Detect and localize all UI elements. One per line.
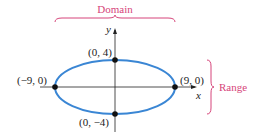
y-axis-arrow-icon	[113, 28, 117, 34]
range-brace	[207, 60, 214, 114]
y-axis-label: y	[105, 23, 111, 35]
ellipse-diagram: Domain Range x y (0, 4) (−9, 0) (9, 0) (…	[0, 0, 259, 140]
point-right-label: (9, 0)	[180, 74, 204, 87]
point-top-label: (0, 4)	[88, 46, 112, 59]
domain-label: Domain	[97, 3, 133, 15]
point-right	[172, 84, 178, 90]
range-label: Range	[219, 81, 247, 93]
point-top	[112, 57, 118, 63]
x-axis-label: x	[195, 89, 201, 101]
point-left-label: (−9, 0)	[17, 74, 47, 87]
domain-brace	[55, 15, 175, 22]
point-bottom-label: (0, −4)	[79, 116, 109, 129]
point-left	[52, 84, 58, 90]
point-bottom	[112, 111, 118, 117]
